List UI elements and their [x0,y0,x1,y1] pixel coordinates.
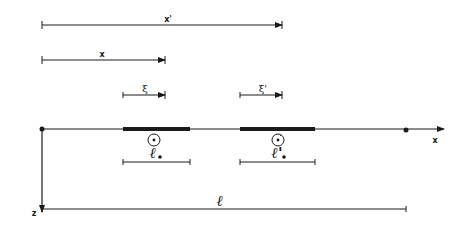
ell-e-prime-dimension: ℓ' [240,144,315,165]
ell-e-dimension: ℓ [123,144,190,165]
end-node [404,128,409,133]
ell-dimension: ℓ [42,192,406,212]
x-prime-dimension: x' [42,15,282,29]
element-e-prime [240,127,315,131]
element-e [123,127,190,131]
ell-e-prime-label: ℓ' [271,144,282,162]
beam-diagram: x' x ξ ξ' x [0,0,469,225]
ell-e-subscript [158,155,162,159]
xi-dimension: ξ [123,83,165,99]
xi-label: ξ [142,83,148,94]
xi-prime-dimension: ξ' [240,83,282,99]
x-axis-label: x [432,136,438,145]
x-prime-label: x' [164,15,172,24]
z-axis-label: z [32,209,37,218]
x-dimension: x [42,50,165,64]
xi-prime-label: ξ' [259,83,267,94]
ell-label: ℓ [217,192,223,210]
x-label: x [99,50,105,59]
ell-e-label: ℓ [150,144,156,162]
z-axis: z [32,129,42,218]
ell-e-prime-subscript [282,155,286,159]
